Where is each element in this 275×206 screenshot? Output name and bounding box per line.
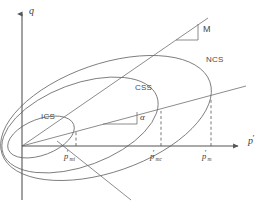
curve-label-ncs: NCS [206, 56, 224, 64]
critical-state-line [22, 18, 208, 146]
slope-label-m: M [203, 25, 211, 34]
tick-pm-sub: m [208, 156, 212, 162]
tick-label-pmi: p′mi [64, 152, 76, 161]
ellipse-css [0, 58, 171, 192]
tick-label-pm: p′m [202, 152, 212, 161]
alpha-angle-triangle [103, 112, 137, 124]
ellipse-ncs [0, 31, 228, 205]
tick-pmc-sub: mc [156, 156, 162, 162]
angle-label-alpha: α [140, 113, 145, 122]
y-axis-label: q [29, 6, 34, 16]
tick-pmc-prime: ′ [153, 149, 155, 158]
curve-label-css: CSS [135, 84, 152, 92]
yield-surface-group [0, 31, 228, 205]
marker-dashed-lines [76, 98, 211, 146]
tick-pmi-sub: mi [70, 156, 76, 162]
x-axis-label-prime: ′ [252, 133, 254, 143]
tick-label-pmc: p′mc [150, 152, 162, 161]
curve-label-ics: ICS [41, 113, 55, 121]
x-axis-label: p′ [248, 136, 255, 146]
figure-canvas: q p′ NCS CSS ICS M α p′mi p′mc p′m [0, 0, 275, 206]
diagram-svg [0, 0, 275, 206]
tick-pm-prime: ′ [205, 149, 207, 158]
tick-pmi-prime: ′ [67, 149, 69, 158]
